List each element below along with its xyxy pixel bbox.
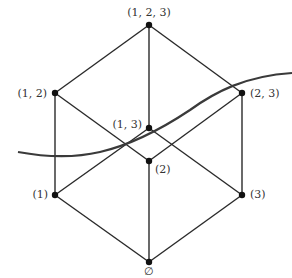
- node-n3: [239, 192, 245, 198]
- edge-n123-n23: [149, 25, 242, 93]
- edges-group: [55, 25, 242, 262]
- node-n12: [52, 90, 58, 96]
- edge-n3-n0: [149, 195, 242, 262]
- edge-n13-n3: [149, 128, 242, 195]
- edge-n1-n0: [55, 195, 149, 262]
- node-label-n0: ∅: [144, 265, 154, 278]
- node-n13: [146, 125, 152, 131]
- hasse-diagram: (1, 2, 3) (1, 2) (2, 3) (1, 3) (2) (1) (…: [0, 0, 292, 278]
- node-n123: [146, 22, 152, 28]
- edge-n123-n12: [55, 25, 149, 93]
- node-label-n2: (2): [155, 163, 171, 176]
- node-label-n123: (1, 2, 3): [127, 6, 171, 19]
- node-label-n3: (3): [250, 188, 266, 201]
- node-n23: [239, 90, 245, 96]
- cut-curve: [18, 73, 292, 156]
- node-label-n1: (1): [32, 188, 48, 201]
- node-label-n23: (2, 3): [250, 87, 280, 100]
- node-n2: [146, 158, 152, 164]
- node-n1: [52, 192, 58, 198]
- edge-n13-n1: [55, 128, 149, 195]
- node-label-n12: (1, 2): [17, 87, 47, 100]
- node-label-n13: (1, 3): [112, 118, 142, 131]
